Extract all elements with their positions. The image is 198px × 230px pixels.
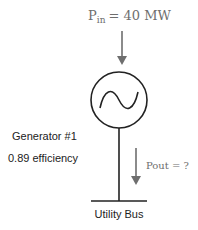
pin-symbol: P [88,8,97,23]
output-arrow [131,148,141,185]
generator-name: Generator #1 [12,130,77,142]
pin-subscript: in [97,15,106,25]
generator-diagram: Pin= 40 MW Pout = ? Generator #1 0.89 ef… [0,0,198,230]
generator-symbol [91,72,147,128]
sine-wave-icon [100,92,138,109]
input-arrow [117,31,127,65]
generator-efficiency: 0.89 efficiency [8,152,79,164]
pin-value: = 40 MW [108,8,171,23]
pin-label: Pin= 40 MW [88,8,171,25]
pout-label: Pout = ? [146,160,189,171]
utility-bus-label: Utility Bus [95,208,144,220]
